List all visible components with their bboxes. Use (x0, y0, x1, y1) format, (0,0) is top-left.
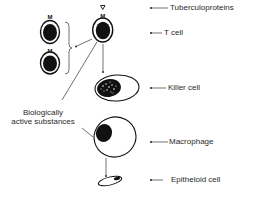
label-epitheloid-cell: Epitheloid cell (171, 175, 220, 184)
arrow-to-epitheloid (105, 158, 107, 177)
svg-text:M: M (48, 14, 53, 20)
macrophage-cell (90, 112, 141, 162)
arrow-to-killer (102, 44, 104, 73)
label-active-substances: active substances (2, 117, 84, 126)
t-cell-daughter-top: M (41, 14, 60, 44)
brace-bracket (65, 22, 72, 74)
line-substances-to-macrophage (82, 128, 93, 137)
arrow-to-daughters (75, 39, 92, 47)
killer-cell (94, 73, 140, 102)
epitheloid-cell (97, 174, 122, 188)
label-biologically: Biologically (2, 108, 84, 117)
antigen-triangle-icon (101, 6, 106, 10)
t-cell-main: M (93, 13, 113, 43)
diagram-canvas: M M M (0, 0, 255, 199)
t-cell-daughter-bottom: M (41, 48, 60, 74)
label-killer-cell: Killer cell (168, 83, 200, 92)
line-to-substances (62, 42, 97, 100)
label-biologically-active-substances: Biologically active substances (2, 108, 84, 126)
label-tuberculoproteins: Tuberculoproteins (170, 3, 234, 12)
label-macrophage: Macrophage (169, 137, 213, 146)
label-t-cell: T cell (164, 28, 183, 37)
